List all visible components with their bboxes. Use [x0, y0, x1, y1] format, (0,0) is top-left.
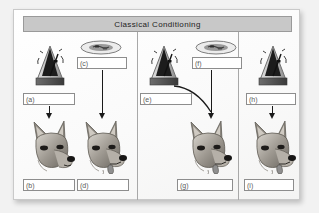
blank-d[interactable]: (d)	[77, 179, 129, 191]
blank-f-label: (f)	[195, 59, 202, 69]
blank-h-label: (h)	[249, 95, 258, 105]
food-bowl-icon	[194, 40, 238, 55]
worksheet-surface: Classical Conditioning	[14, 10, 299, 199]
blank-g-label: (g)	[180, 181, 189, 191]
blank-c-label: (c)	[80, 59, 88, 69]
down-arrow-head-icon	[269, 113, 275, 119]
blank-h[interactable]: (h)	[246, 93, 296, 105]
panel-divider-1	[137, 32, 138, 200]
down-arrow-head-icon	[99, 113, 105, 119]
page-title: Classical Conditioning	[114, 20, 200, 29]
blank-a[interactable]: (a)	[23, 93, 75, 105]
diagram-title-bar: Classical Conditioning	[23, 16, 292, 32]
blank-a-label: (a)	[26, 95, 35, 105]
down-arrow-head-icon	[46, 113, 52, 119]
blank-c[interactable]: (c)	[77, 57, 127, 69]
worksheet-sheet: Classical Conditioning	[13, 9, 300, 200]
german-shepherd-icon	[24, 120, 80, 174]
german-shepherd-salivating-icon	[76, 120, 132, 174]
german-shepherd-salivating-icon	[181, 120, 237, 174]
down-arrow-icon	[102, 70, 103, 115]
blank-i-label: (i)	[247, 181, 253, 191]
blank-f[interactable]: (f)	[192, 57, 242, 69]
blank-e[interactable]: (e)	[140, 93, 192, 105]
german-shepherd-salivating-icon	[245, 120, 301, 174]
metronome-icon	[251, 40, 295, 88]
down-arrow-icon	[211, 70, 212, 115]
metronome-icon	[28, 40, 72, 88]
blank-b[interactable]: (b)	[23, 179, 75, 191]
screenshot-root: Classical Conditioning	[0, 0, 319, 213]
blank-g[interactable]: (g)	[177, 179, 233, 191]
blank-e-label: (e)	[143, 95, 152, 105]
blank-i[interactable]: (i)	[244, 179, 294, 191]
metronome-icon	[142, 40, 186, 88]
blank-d-label: (d)	[80, 181, 89, 191]
blank-b-label: (b)	[26, 181, 35, 191]
down-arrow-head-icon	[208, 113, 214, 119]
food-bowl-icon	[79, 40, 123, 55]
